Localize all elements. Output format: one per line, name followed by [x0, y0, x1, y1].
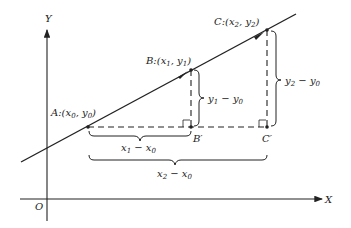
point-c — [265, 28, 269, 32]
brace-dx1-label: x1 − x0 — [121, 142, 157, 155]
slope-diagram: X Y O A:(x0, y0) B:(x1, y1) C:(x2, y2) B… — [0, 0, 351, 228]
brace-dy2 — [271, 31, 281, 126]
right-angle-c — [259, 120, 266, 127]
point-c-prime-label: C′ — [262, 133, 273, 144]
line-arrow-b — [178, 71, 188, 79]
point-b — [189, 68, 193, 72]
right-angle-b — [183, 120, 190, 127]
brace-dy1 — [194, 70, 204, 126]
point-b-prime — [189, 125, 193, 129]
point-c-label: C:(x2, y2) — [214, 16, 260, 29]
y-axis-label: Y — [45, 13, 53, 24]
point-a — [86, 125, 90, 129]
brace-dy1-label: y1 − y0 — [207, 93, 244, 106]
brace-dx1 — [89, 131, 191, 141]
brace-dx2 — [89, 155, 267, 165]
brace-dx2-label: x2 − x0 — [157, 168, 193, 181]
point-a-label: A:(x0, y0) — [50, 107, 96, 120]
origin-label: O — [35, 201, 43, 212]
point-b-prime-label: B′ — [192, 133, 203, 144]
point-c-prime — [265, 125, 269, 129]
brace-dy2-label: y2 − y0 — [284, 75, 321, 88]
x-axis-label: X — [324, 194, 333, 205]
sloped-line — [21, 14, 296, 162]
point-b-label: B:(x1, y1) — [145, 55, 191, 68]
